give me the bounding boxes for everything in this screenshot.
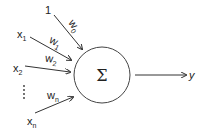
perceptron-diagram: Σ 1 x1 x2 xn w0 w1 w2 wn y bbox=[0, 0, 201, 133]
sigma-symbol: Σ bbox=[96, 66, 107, 85]
arrow-x2 bbox=[25, 66, 70, 72]
input-x2-label: x2 bbox=[13, 62, 23, 76]
weight-w0-label: w0 bbox=[64, 16, 83, 35]
weight-w1-label: w1 bbox=[46, 33, 64, 51]
input-xn-label: xn bbox=[27, 115, 37, 129]
output-y-label: y bbox=[188, 69, 196, 81]
input-x1-label: x1 bbox=[17, 28, 27, 42]
ellipsis-dots bbox=[23, 85, 25, 99]
input-bias-label: 1 bbox=[45, 4, 51, 16]
weight-wn-label: wn bbox=[46, 89, 59, 103]
weight-w2-label: w2 bbox=[43, 52, 58, 68]
